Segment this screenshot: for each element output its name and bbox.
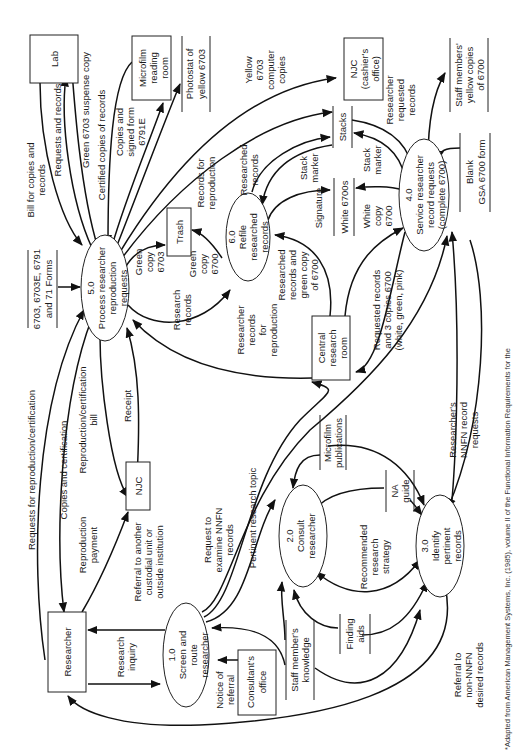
svg-text:room: room xyxy=(338,337,349,359)
svg-text:researched: researched xyxy=(248,213,259,261)
store-photostat: Photostat of yellow 6703 xyxy=(182,36,210,112)
flow-label: Stack xyxy=(298,156,309,180)
flow-label: marker xyxy=(372,145,383,175)
entity-trash: Trash xyxy=(167,208,191,256)
svg-text:Process researcher: Process researcher xyxy=(96,247,107,329)
flow-label: inquiry xyxy=(126,643,137,671)
svg-text:research: research xyxy=(327,330,338,367)
flow-label: 6791E xyxy=(136,118,147,145)
store-blank-gsa-form: Blank GSA 6700 form xyxy=(460,133,490,212)
svg-text:Finding: Finding xyxy=(344,618,355,649)
svg-text:Trash: Trash xyxy=(174,220,185,244)
svg-text:Service researcher: Service researcher xyxy=(414,155,425,235)
store-na-guide: NA guide xyxy=(386,470,414,512)
flow-label: non-NNFN xyxy=(463,652,474,698)
flow-label: requested xyxy=(395,79,406,121)
svg-text:NJC: NJC xyxy=(133,477,144,496)
svg-text:office): office) xyxy=(370,56,381,82)
svg-text:Consult: Consult xyxy=(295,520,306,553)
flow-label: Receipt xyxy=(122,390,133,423)
flow-label: signed form xyxy=(125,107,136,157)
process-2-0: 2.0 Consult researcher xyxy=(279,485,327,587)
svg-text:Researcher: Researcher xyxy=(62,627,73,676)
flow-label: records xyxy=(246,314,257,346)
svg-text:room: room xyxy=(159,57,170,79)
svg-text:3.0: 3.0 xyxy=(419,539,430,552)
entity-microfilm-reading-room: Microfilm reading room xyxy=(132,36,171,100)
flow-label: computer xyxy=(265,50,276,90)
flow-label: copy xyxy=(198,254,209,274)
svg-text:knowledge: knowledge xyxy=(300,637,311,682)
svg-text:records: records xyxy=(452,530,463,562)
flow-label: Yellow xyxy=(243,56,254,83)
flow-label: records xyxy=(182,294,193,326)
svg-text:6.0: 6.0 xyxy=(226,230,237,243)
flow-label: examine NNFN xyxy=(213,507,224,572)
svg-text:reading: reading xyxy=(148,52,159,84)
flow-label: copies xyxy=(276,56,287,84)
svg-text:researcher: researcher xyxy=(199,632,210,677)
svg-text:requests: requests xyxy=(118,270,129,307)
data-flow-diagram: Lab Microfilm reading room Trash NJC (ca… xyxy=(0,0,518,752)
flow-label: payment xyxy=(88,526,99,563)
entity-njc-cashier: NJC (cashier's office) xyxy=(344,38,383,100)
svg-text:Central: Central xyxy=(316,333,327,364)
flow-label: Researched xyxy=(276,249,287,300)
store-staff-knowledge: Staff member's knowledge xyxy=(286,620,314,700)
flow-label: desired records xyxy=(474,642,485,708)
entity-researcher: Researcher xyxy=(48,612,86,692)
flow-label: records xyxy=(36,164,47,196)
flow-label: custodial unit or xyxy=(143,529,154,596)
flow-label: research xyxy=(369,539,380,576)
process-5-0: 5.0 Process researcher reproduction requ… xyxy=(81,235,129,341)
flow-label: Researcher xyxy=(235,305,246,354)
flow-label: White xyxy=(361,204,372,228)
store-forms: 6703, 6703E, 6791 and 71 Forms xyxy=(28,249,57,329)
flow-label: Research xyxy=(115,637,126,678)
svg-text:2.0: 2.0 xyxy=(284,529,295,542)
entity-central-research-room: Central research room xyxy=(312,316,350,380)
flow-label: Requests for reproduction/certification xyxy=(26,390,37,550)
footnote: *Adapted from American Management System… xyxy=(503,348,512,750)
flow-label: of 6700 xyxy=(309,259,320,291)
flow-label: Referral to xyxy=(452,653,463,697)
flow-label: Recommended xyxy=(358,525,369,589)
svg-text:Microfilm: Microfilm xyxy=(322,424,333,462)
flow-label: outside institution xyxy=(154,525,165,598)
footnote-italic-title: Functional Information Requirements for … xyxy=(503,348,512,494)
process-6-0: 6.0 Refile researched records xyxy=(226,193,270,281)
entity-lab-label: Lab xyxy=(49,51,60,67)
svg-text:Microfilm: Microfilm xyxy=(137,49,148,87)
svg-text:Staff member's: Staff member's xyxy=(289,628,300,692)
store-stacks: Stacks xyxy=(333,106,352,148)
svg-text:(complete 6700): (complete 6700) xyxy=(436,161,447,230)
process-4-0: 4.0 Service researcher record requests (… xyxy=(399,139,449,251)
flow-label: Copies and certification xyxy=(58,421,69,520)
flow-label: NNFN record xyxy=(458,402,469,458)
svg-text:(cashier's: (cashier's xyxy=(359,49,370,90)
svg-text:yellow 6703: yellow 6703 xyxy=(196,49,207,99)
store-white-6700s: White 6700s xyxy=(334,178,354,236)
flow-label: Certified copies of records xyxy=(96,90,107,201)
svg-text:researcher: researcher xyxy=(306,513,317,558)
entity-consultants-office: Consultant's office xyxy=(238,650,276,715)
entity-njc: NJC xyxy=(126,462,150,510)
flow-label: records xyxy=(224,524,235,556)
svg-text:Screen and: Screen and xyxy=(177,631,188,680)
flow-label: Signature xyxy=(313,188,324,229)
flow-label: reproduction xyxy=(268,304,279,357)
svg-text:Blank: Blank xyxy=(464,160,475,184)
svg-text:publications: publications xyxy=(333,418,344,468)
flow-label: Notice of xyxy=(214,671,225,709)
flow-label: and 3 copies 6700 xyxy=(382,271,393,349)
flow-label: records xyxy=(249,154,260,186)
svg-text:Consultant's: Consultant's xyxy=(245,656,256,708)
svg-text:Photostat of: Photostat of xyxy=(184,48,195,99)
svg-text:route: route xyxy=(188,644,199,666)
svg-text:and 71 Forms: and 71 Forms xyxy=(43,259,54,318)
flow-label: Bill for copies and xyxy=(25,143,36,218)
flow-label: Stack xyxy=(361,148,372,172)
flow-label: referral xyxy=(225,675,236,705)
svg-text:1.0: 1.0 xyxy=(166,648,177,661)
svg-text:Refile: Refile xyxy=(237,225,248,249)
